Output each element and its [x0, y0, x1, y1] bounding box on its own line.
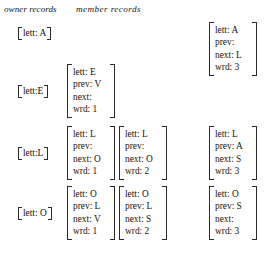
field-wrd: wrd: 3 [215, 225, 251, 237]
field-wrd: wrd: 1 [73, 165, 109, 177]
record-row-l: lett:L lett: L prev: next: O wrd: 1 lett… [0, 126, 270, 182]
field-wrd: wrd: 1 [73, 103, 109, 115]
member-record-o-3: lett: O prev: S next: wrd: 3 [208, 186, 258, 240]
owner-record-cell: lett: O [18, 202, 52, 221]
member-record-cell: lett: O prev: S next: wrd: 3 [208, 186, 258, 240]
member-record-cell: lett: L prev: next: O wrd: 1 [66, 126, 116, 180]
member-record-o-1: lett: O prev: L next: V wrd: 1 [66, 186, 116, 240]
field-prev: prev: [125, 140, 161, 152]
field-next: next: L [215, 49, 251, 61]
record-row-e: lett:E lett: E prev: V next: wrd: 1 [0, 64, 270, 120]
field-prev: prev: S [215, 200, 251, 212]
field-wrd: wrd: 2 [125, 165, 161, 177]
record-row-o: lett: O lett: O prev: L next: V wrd: 1 l… [0, 186, 270, 244]
field-lett: lett: A [215, 24, 251, 36]
field-next: next: O [73, 153, 109, 165]
owner-record-cell: lett:E [18, 80, 48, 99]
field-lett: lett: O [215, 188, 251, 200]
field-next: next: S [215, 153, 251, 165]
bracket-left-icon [18, 85, 21, 98]
field-lett: lett: O [73, 188, 109, 200]
member-record-e-1: lett: E prev: V next: wrd: 1 [66, 64, 116, 118]
field-lett: lett: L [125, 128, 161, 140]
bracket-left-icon [18, 147, 21, 160]
member-record-cell: lett: E prev: V next: wrd: 1 [66, 64, 116, 118]
bracket-right-icon [48, 27, 51, 40]
field-next: next: V [73, 213, 109, 225]
field-lett: lett: L [73, 128, 109, 140]
member-record-o-2: lett: O prev: L next: S wrd: 2 [118, 186, 168, 240]
field-next: next: [73, 91, 109, 103]
member-record-cell: lett: O prev: L next: V wrd: 1 [66, 186, 116, 240]
field-prev: prev: A [215, 140, 251, 152]
field-prev: prev: V [73, 78, 109, 90]
member-record-l-2: lett: L prev: next: O wrd: 2 [118, 126, 168, 180]
owner-record-label: lett:E [21, 85, 45, 98]
owner-record-label: lett: A [21, 27, 48, 40]
records-diagram: owner records member records lett: A let… [0, 0, 270, 260]
field-wrd: wrd: 1 [73, 225, 109, 237]
owner-record-o: lett: O [18, 206, 52, 221]
field-prev: prev: [215, 36, 251, 48]
member-record-cell: lett: L prev: next: O wrd: 2 [118, 126, 168, 180]
owner-record-e: lett:E [18, 84, 48, 99]
field-next: next: [215, 213, 251, 225]
member-record-cell: lett: O prev: L next: S wrd: 2 [118, 186, 168, 240]
owner-records-header: owner records [4, 3, 57, 15]
owner-record-a: lett: A [18, 26, 51, 41]
bracket-right-icon [49, 207, 52, 220]
field-next: next: S [125, 213, 161, 225]
owner-record-cell: lett: A [18, 22, 51, 41]
field-next: next: O [125, 153, 161, 165]
member-records-header: member records [76, 3, 141, 15]
field-wrd: wrd: 2 [125, 225, 161, 237]
bracket-left-icon [18, 207, 21, 220]
field-prev: prev: [73, 140, 109, 152]
member-record-l-3: lett: L prev: A next: S wrd: 3 [208, 126, 258, 180]
member-record-cell: lett: L prev: A next: S wrd: 3 [208, 126, 258, 180]
field-lett: lett: O [125, 188, 161, 200]
field-lett: lett: E [73, 66, 109, 78]
field-prev: prev: L [73, 200, 109, 212]
owner-record-label: lett:L [21, 147, 45, 160]
field-prev: prev: L [125, 200, 161, 212]
bracket-right-icon [45, 85, 48, 98]
field-lett: lett: L [215, 128, 251, 140]
bracket-left-icon [18, 27, 21, 40]
bracket-right-icon [45, 147, 48, 160]
owner-record-label: lett: O [21, 207, 49, 220]
column-headers: owner records member records [0, 0, 270, 16]
member-record-l-1: lett: L prev: next: O wrd: 1 [66, 126, 116, 180]
owner-record-cell: lett:L [18, 142, 48, 161]
owner-record-l: lett:L [18, 146, 48, 161]
field-wrd: wrd: 3 [215, 165, 251, 177]
